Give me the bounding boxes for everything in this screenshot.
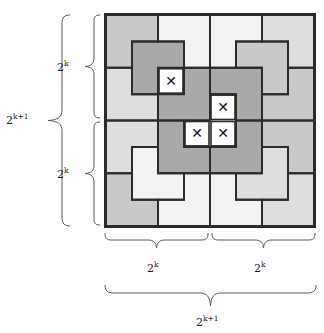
label-left-bottom-sup: k <box>64 166 69 175</box>
label-bottom-outer-base: 2 <box>196 316 203 329</box>
brace-left-bottom <box>84 121 102 227</box>
x-mark: ✕ <box>211 122 235 146</box>
svg-text:✕: ✕ <box>165 73 177 89</box>
label-left-bottom: 2k <box>57 167 69 180</box>
label-bottom-left-base: 2 <box>147 262 154 275</box>
tromino-tiling-figure: 2k+1 2k 2k ✕✕✕✕ 2k 2k 2k+1 <box>0 0 324 333</box>
brace-bottom-right <box>211 232 317 250</box>
x-mark: ✕ <box>159 69 183 93</box>
label-left-outer-sup: k+1 <box>13 112 29 121</box>
svg-text:✕: ✕ <box>217 125 229 141</box>
tiling-svg: ✕✕✕✕ <box>104 13 316 228</box>
label-left-top: 2k <box>57 60 69 73</box>
label-left-outer-base: 2 <box>6 114 13 127</box>
tiling-board: ✕✕✕✕ <box>104 13 316 228</box>
label-bottom-outer-sup: k+1 <box>203 314 219 323</box>
svg-text:✕: ✕ <box>217 99 229 115</box>
x-mark: ✕ <box>211 95 235 119</box>
label-bottom-right: 2k <box>254 261 266 274</box>
brace-bottom-left <box>104 232 210 250</box>
label-left-bottom-base: 2 <box>57 168 64 181</box>
label-bottom-left-sup: k <box>154 260 159 269</box>
brace-left-outer <box>46 14 72 227</box>
label-left-outer: 2k+1 <box>6 113 29 126</box>
label-bottom-right-base: 2 <box>254 262 261 275</box>
label-left-top-sup: k <box>64 59 69 68</box>
brace-bottom-outer <box>104 284 317 308</box>
x-mark: ✕ <box>185 122 209 146</box>
svg-text:✕: ✕ <box>191 125 203 141</box>
label-bottom-right-sup: k <box>261 260 266 269</box>
label-bottom-left: 2k <box>147 261 159 274</box>
label-bottom-outer: 2k+1 <box>196 315 219 328</box>
brace-left-top <box>84 14 102 120</box>
label-left-top-base: 2 <box>57 61 64 74</box>
